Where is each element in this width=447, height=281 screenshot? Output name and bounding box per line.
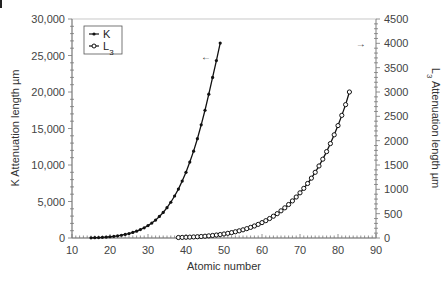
y-axis-left: 05,00010,00015,00020,00025,00030,000 <box>31 13 74 244</box>
chart: 102030405060708090 05,00010,00015,00020,… <box>0 0 447 281</box>
x-tick-label: 30 <box>142 244 154 256</box>
y2-tick-label: 0 <box>384 232 390 244</box>
y2-tick-label: 4500 <box>384 13 408 25</box>
y-tick-label: 0 <box>59 232 65 244</box>
y-tick-label: 15,000 <box>31 123 65 135</box>
x-tick-label: 70 <box>294 244 306 256</box>
y2-tick-label: 1500 <box>384 159 408 171</box>
series-l3 <box>176 90 351 240</box>
x-tick-label: 60 <box>256 244 268 256</box>
y2-tick-label: 3000 <box>384 86 408 98</box>
y-tick-label: 5,000 <box>37 196 65 208</box>
right-arrow-annotation: → <box>356 38 366 49</box>
y2-tick-label: 4000 <box>384 37 408 49</box>
y-axis-right: 050010001500200025003000350040004500 <box>374 13 408 244</box>
x-tick-label: 40 <box>180 244 192 256</box>
x-tick-label: 50 <box>218 244 230 256</box>
x-tick-label: 10 <box>66 244 78 256</box>
annotations: ←→ <box>201 38 366 61</box>
y2-tick-label: 2500 <box>384 110 408 122</box>
y-tick-label: 25,000 <box>31 50 65 62</box>
y2-tick-label: 500 <box>384 208 402 220</box>
y2-tick-label: 3500 <box>384 62 408 74</box>
legend: KL3 <box>84 26 122 57</box>
x-axis-title: Atomic number <box>187 260 261 272</box>
x-tick-label: 80 <box>332 244 344 256</box>
x-tick-label: 20 <box>104 244 116 256</box>
series-k <box>89 41 221 239</box>
y-tick-label: 10,000 <box>31 159 65 171</box>
x-tick-label: 90 <box>370 244 382 256</box>
y2-tick-label: 2000 <box>384 135 408 147</box>
legend-label-k: K <box>103 28 111 40</box>
y2-tick-label: 1000 <box>384 183 408 195</box>
y-tick-label: 20,000 <box>31 86 65 98</box>
y-axis-left-title: K Attenuation length µm <box>9 69 21 186</box>
y-tick-label: 30,000 <box>31 13 65 25</box>
left-arrow-annotation: ← <box>201 51 211 62</box>
y-axis-right-title: L3 Attenuation length µm <box>426 68 443 188</box>
